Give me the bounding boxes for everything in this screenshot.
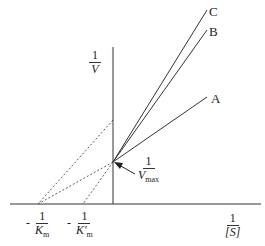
- km-prime-label-k: K': [76, 223, 87, 237]
- y-axis-label-denominator: V: [89, 63, 100, 76]
- km-prime-label-subscript: m: [87, 230, 93, 239]
- km-prime-label: 1 K'm: [74, 210, 95, 241]
- y-axis-label: 1 V: [89, 49, 101, 76]
- line-label-b: B: [209, 24, 218, 40]
- line-label-c: C: [209, 4, 218, 20]
- y-axis-label-numerator: 1: [89, 49, 101, 63]
- arrow-head-icon: [114, 162, 123, 169]
- line-c-extrapolation: [38, 162, 113, 204]
- x-axis-label-numerator: 1: [227, 212, 239, 226]
- line-b-extrapolation: [83, 162, 113, 204]
- line-c: [113, 10, 207, 162]
- km-sign: -: [26, 216, 30, 231]
- vmax-label-denominator: Vmax: [136, 169, 161, 186]
- km-prime-label-denominator: K'm: [74, 224, 95, 241]
- km-prime-label-numerator: 1: [78, 210, 90, 224]
- line-label-a: A: [211, 91, 220, 107]
- line-b: [113, 30, 207, 162]
- km-label: 1 Km: [33, 210, 51, 241]
- km-label-subscript: m: [43, 230, 49, 239]
- line-a: [113, 97, 207, 162]
- x-axis-label-denominator: [S]: [223, 226, 242, 239]
- km-prime-sign: -: [67, 216, 71, 231]
- km-label-k: K: [35, 223, 43, 237]
- vmax-label-numerator: 1: [143, 155, 155, 169]
- km-label-numerator: 1: [36, 210, 48, 224]
- x-axis-label: 1 [S]: [223, 212, 242, 239]
- intercept-arrow: [119, 165, 135, 174]
- km-label-denominator: Km: [33, 224, 51, 241]
- line-c-extrapolation-upper: [38, 120, 113, 204]
- vmax-label-subscript: max: [145, 175, 159, 184]
- vmax-intercept-label: 1 Vmax: [136, 155, 161, 186]
